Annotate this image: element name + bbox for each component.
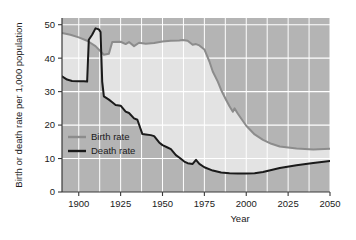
x-tick-label: 1950: [152, 198, 173, 209]
y-tick-label: 0: [50, 186, 55, 197]
legend-label: Birth rate: [91, 131, 130, 142]
x-tick-label: 2025: [278, 198, 299, 209]
x-tick-label: 1900: [68, 198, 89, 209]
y-tick-label: 30: [44, 86, 55, 97]
y-tick-label: 10: [44, 153, 55, 164]
y-axis-title: Birth or death rate per 1,000 population: [13, 22, 24, 187]
x-tick-label: 1925: [110, 198, 131, 209]
x-tick-label: 2000: [236, 198, 257, 209]
chart-canvas: 01020304050 1900192519501975200020252050…: [0, 0, 356, 240]
y-tick-label: 50: [44, 19, 55, 30]
y-tick-label: 20: [44, 119, 55, 130]
chart-figure: 01020304050 1900192519501975200020252050…: [0, 0, 356, 240]
y-tick-label: 40: [44, 53, 55, 64]
x-tick-label: 1975: [194, 198, 215, 209]
x-tick-label: 2050: [319, 198, 340, 209]
x-axis-title: Year: [230, 213, 249, 224]
legend-label: Death rate: [91, 145, 135, 156]
